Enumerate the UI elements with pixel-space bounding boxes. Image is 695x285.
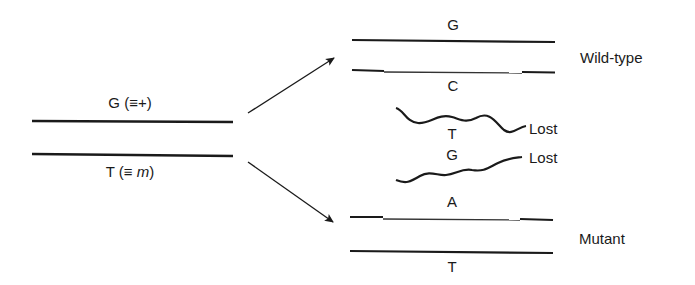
mutant-label: Mutant <box>579 231 625 247</box>
mutant-top-strand <box>350 217 553 220</box>
parent-bottom-strand <box>32 154 233 156</box>
lost-strand-t <box>396 108 526 132</box>
parent-top-label: G (≡+) <box>108 95 151 111</box>
lost-strand-t-label: Lost <box>529 121 557 137</box>
wild-type-top-strand <box>352 40 555 42</box>
arrow-to-wild-type <box>248 58 334 113</box>
lost-strand-g-base: G <box>446 147 458 163</box>
parent-bottom-label: T (≡ m) <box>106 164 155 180</box>
mutant-bottom-strand <box>350 251 553 253</box>
lost-strand-t-base: T <box>447 126 456 142</box>
mutant-top-base: A <box>447 194 457 210</box>
lost-strand-g <box>396 157 522 182</box>
wild-type-top-base: G <box>447 17 459 33</box>
wild-type-bottom-strand <box>352 70 555 73</box>
parent-top-strand <box>32 121 233 122</box>
mutant-bottom-base: T <box>447 259 456 275</box>
arrow-to-mutant <box>248 162 333 222</box>
wild-type-bottom-base: C <box>448 78 459 94</box>
wild-type-label: Wild-type <box>580 50 643 66</box>
lost-strand-g-label: Lost <box>529 150 557 166</box>
